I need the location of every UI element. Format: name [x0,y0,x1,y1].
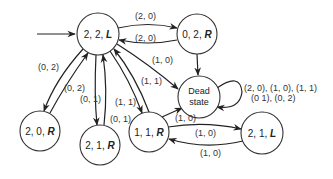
node-2-2-L: 2, 2, L [77,13,119,55]
svg-text:2, 1, L: 2, 1, L [248,128,276,139]
label-22L-21R: (0, 1) [80,94,101,104]
svg-text:1, 1, R: 1, 1, R [134,127,164,138]
label-11R-22L: (1, 1) [115,97,136,107]
node-1-1-R: 1, 1, R [129,112,169,152]
label-22L-dead: (1, 0) [152,55,173,65]
label-20R-22L: (0, 2) [64,83,85,93]
label-02R-22L: (2, 0) [135,33,156,43]
edge-21R-22L [103,55,106,125]
edge-22L-21R [95,55,97,125]
svg-text:state: state [189,97,209,107]
svg-text:2, 0, R: 2, 0, R [25,126,55,137]
state-diagram: 2, 2, L 0, 2, R Dead state 2, 0, R 2, 1,… [0,0,333,179]
edge-dead-self-loop [217,81,242,108]
svg-text:0, 2, R: 0, 2, R [182,29,212,40]
node-2-0-R: 2, 0, R [20,111,60,151]
node-dead-state: Dead state [178,76,220,118]
label-22L-11R: (1, 1) [141,76,162,86]
label-dead-loop-line1: (2, 0), (1, 0), (1, 1) [244,83,317,93]
label-11R-dead: (1, 0) [175,113,196,123]
svg-text:2, 2, L: 2, 2, L [84,29,112,40]
edge-22L-02R [118,25,177,29]
node-0-2-R: 0, 2, R [177,14,217,54]
edge-22L-20R [44,49,83,111]
node-2-1-R: 2, 1, R [80,125,120,165]
label-21R-22L: (0, 1) [110,114,131,124]
svg-text:Dead: Dead [188,86,210,96]
edge-21L-11R [169,139,243,145]
label-21L-11R: (1, 0) [200,148,221,158]
node-2-1-L: 2, 1, L [241,112,283,154]
svg-text:2, 1, R: 2, 1, R [85,140,115,151]
label-dead-loop-line2: (0 1), (0, 2) [251,93,296,103]
label-22L-02R: (2, 0) [135,11,156,21]
label-22L-20R: (0, 2) [38,62,59,72]
edge-02R-dead [197,54,198,75]
label-11R-21L: (1, 0) [195,128,216,138]
